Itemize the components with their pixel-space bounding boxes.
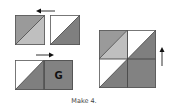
left-arrow-icon (36, 7, 56, 15)
square-g: G (44, 60, 73, 90)
up-arrow-icon (158, 47, 166, 66)
right-arrow-icon (36, 51, 54, 59)
finished-block (99, 30, 156, 88)
caption: Make 4. (0, 97, 168, 105)
hst-unit-white-dark (50, 15, 80, 45)
hst-unit-white-dark-step2 (15, 60, 44, 90)
hst-unit-gray-light (15, 15, 45, 45)
square-g-label: G (54, 70, 62, 81)
